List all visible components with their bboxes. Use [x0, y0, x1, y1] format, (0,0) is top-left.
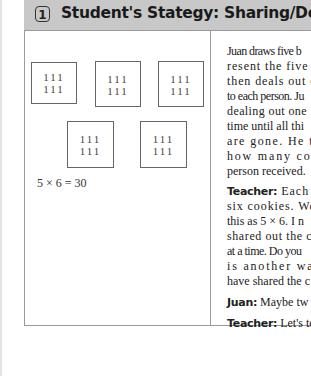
text-line: resent the five f [227, 59, 311, 74]
strategy-text: Juan draws five b resent the five f then… [227, 44, 311, 337]
dialogue-teacher-1: Teacher: Each p six cookies. We this as … [227, 184, 311, 289]
panel-title: Student's Stategy: Sharing/Dealing Out [61, 4, 311, 22]
cookie-box: 111 111 [67, 121, 114, 168]
cookie-box: 111 111 [140, 121, 187, 168]
box-row: 111 [96, 85, 140, 97]
text-span: Each p [277, 184, 311, 198]
text-line: dealing out one [227, 104, 311, 119]
column-divider [210, 30, 211, 325]
speaker-label: Teacher: [227, 185, 277, 198]
box-row: 111 [159, 85, 203, 97]
speaker-label: Teacher: [227, 317, 277, 330]
box-row: 111 [96, 73, 140, 85]
text-line: six cookies. We [227, 199, 311, 214]
dialogue-teacher-2: Teacher: Let's te [227, 316, 311, 331]
box-row: 111 [141, 145, 186, 157]
text-line: have shared the c [227, 274, 311, 289]
text-line: this as 5 × 6. I n [227, 214, 311, 229]
cookie-box: 111 111 [95, 61, 141, 107]
text-line: are gone. He th [227, 134, 311, 149]
multiplication-equation: 5 × 6 = 30 [37, 176, 87, 191]
dialogue-juan: Juan: Maybe tw [227, 295, 311, 310]
box-row: 111 [68, 133, 113, 145]
box-row: 111 [141, 133, 186, 145]
step-number-badge: 1 [35, 6, 50, 22]
narrative-paragraph: Juan draws five b resent the five f then… [227, 44, 311, 179]
text-line: time until all thi [227, 119, 311, 134]
box-row: 111 [159, 73, 203, 85]
text-line: to each person. Ju [227, 89, 311, 104]
text-line: how many coo [227, 149, 311, 164]
text-line: Teacher: Let's te [227, 316, 311, 331]
text-line: shared out the c [227, 229, 311, 244]
speaker-label: Juan: [227, 296, 257, 309]
cookie-box: 111 111 [31, 62, 77, 104]
cookie-box: 111 111 [158, 61, 204, 107]
box-row: 111 [32, 71, 76, 83]
box-row: 111 [32, 83, 76, 95]
text-span: Let's te [277, 316, 311, 330]
text-line: Teacher: Each p [227, 184, 311, 199]
text-line: person received. [227, 164, 311, 179]
text-span: Maybe tw [257, 295, 308, 309]
text-line: Juan: Maybe tw [227, 295, 311, 310]
text-line: Juan draws five b [227, 44, 311, 59]
text-line: then deals out o [227, 74, 311, 89]
text-line: at a time. Do you [227, 244, 311, 259]
box-row: 111 [68, 145, 113, 157]
text-line: is another way [227, 259, 311, 274]
page-edge [0, 0, 2, 376]
